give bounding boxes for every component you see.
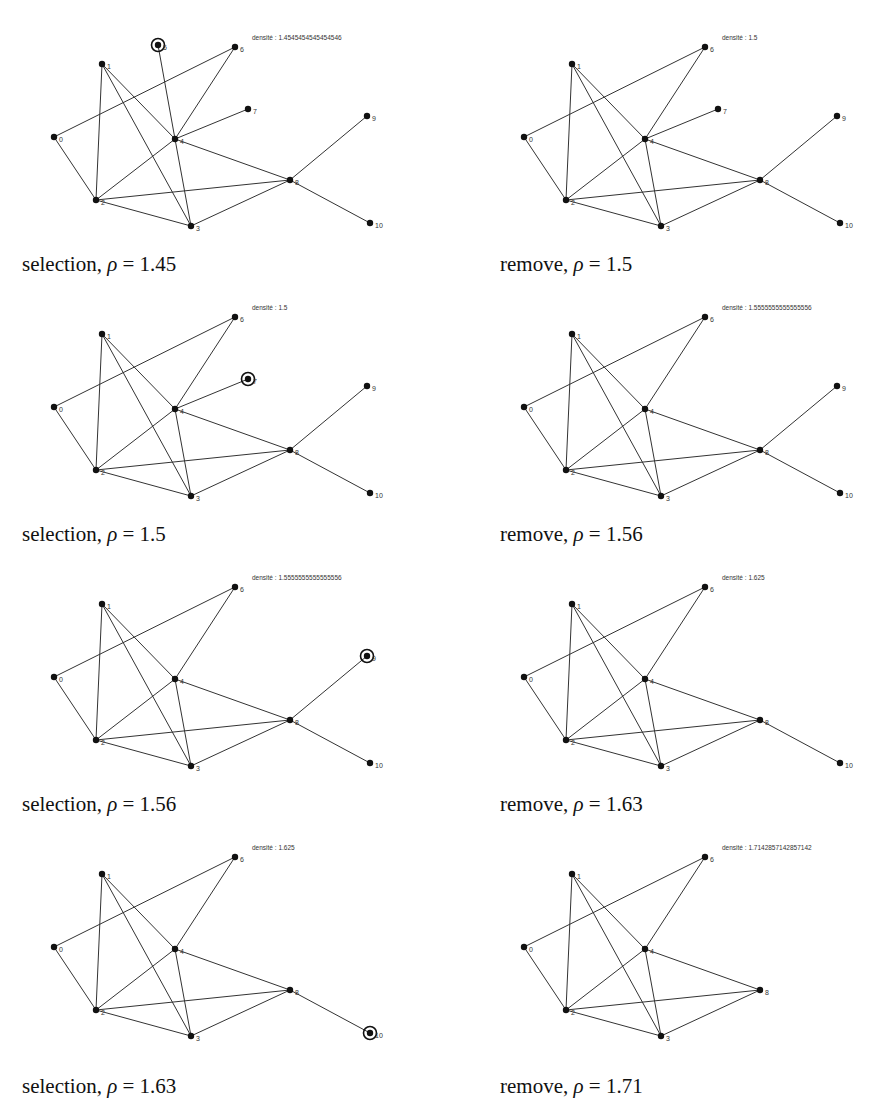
node-label: 7 (723, 108, 727, 115)
graph-edge (175, 317, 235, 409)
graph-drawing: 0123468910densité : 1.5555555555555556 (470, 270, 869, 510)
graph-edge (524, 947, 566, 1010)
node-label: 0 (59, 136, 63, 143)
graph-edge (96, 720, 290, 740)
graph-edge (566, 470, 661, 496)
graph-node-9: 9 (361, 650, 377, 663)
node-label: 2 (571, 739, 575, 746)
graph-drawing: 01234678910densité : 1.5 (470, 0, 869, 240)
graph-panel-8: 0123468densité : 1.7142857142857142 (470, 810, 869, 1080)
caption-operation: remove, (500, 1074, 573, 1098)
node-label: 3 (666, 495, 670, 502)
graph-edge (102, 604, 191, 766)
density-annotation: densité : 1.4545454545454546 (252, 34, 342, 41)
graph-edge (54, 587, 235, 677)
node-label: 8 (295, 989, 299, 996)
graph-node-6: 6 (702, 44, 714, 53)
graph-edge (524, 407, 566, 470)
graph-edge (661, 180, 760, 226)
graph-node-6: 6 (232, 44, 244, 53)
density-annotation: densité : 1.5 (722, 34, 758, 41)
graph-edge (175, 587, 235, 679)
density-annotation: densité : 1.5 (252, 304, 288, 311)
graph-edge (524, 857, 705, 947)
node-label: 9 (372, 115, 376, 122)
graph-edge (54, 677, 96, 740)
graph-edge (566, 990, 760, 1010)
graph-node-10: 10 (367, 490, 383, 499)
graph-edge (158, 45, 175, 139)
node-label: 8 (765, 989, 769, 996)
node-label: 2 (101, 1009, 105, 1016)
graph-edge (175, 949, 191, 1036)
graph-edge (566, 1010, 661, 1036)
rho-symbol: ρ (573, 1074, 583, 1098)
graph-panel-6: 012346810densité : 1.625 (470, 540, 869, 810)
graph-edge (175, 139, 290, 180)
graph-edge (96, 180, 290, 200)
graph-drawing: 012346810densité : 1.625 (470, 540, 869, 780)
graph-edge (96, 679, 175, 740)
graph-edge (96, 1010, 191, 1036)
rho-symbol: ρ (107, 1074, 117, 1098)
graph-edge (661, 990, 760, 1036)
graph-edge (290, 180, 370, 223)
graph-edge (572, 334, 645, 409)
node-label: 6 (240, 586, 244, 593)
graph-node-9: 9 (364, 383, 376, 392)
graph-drawing: 0123468910densité : 1.5555555555555556 (0, 540, 435, 780)
density-annotation: densité : 1.5555555555555556 (722, 304, 812, 311)
graph-edge (645, 679, 760, 720)
graph-edge (96, 874, 102, 1010)
graph-node-7: 7 (242, 373, 258, 386)
graph-edge (566, 679, 645, 740)
node-label: 1 (577, 333, 581, 340)
node-label: 2 (571, 469, 575, 476)
graph-edge (645, 47, 705, 139)
graph-edge (102, 874, 175, 949)
graph-edge (524, 47, 705, 137)
node-label: 10 (375, 222, 383, 229)
graph-edge (645, 139, 760, 180)
graph-edge (572, 874, 645, 949)
graph-edge (645, 317, 705, 409)
node-label: 2 (101, 199, 105, 206)
graph-panel-4: 0123468910densité : 1.5555555555555556 (470, 270, 869, 540)
graph-drawing: 01234678910densité : 1.5 (0, 270, 435, 510)
node-label: 3 (196, 225, 200, 232)
caption-density-value: = 1.63 (117, 1074, 176, 1098)
node-label: 0 (529, 136, 533, 143)
graph-edge (572, 334, 661, 496)
node-label: 8 (765, 449, 769, 456)
node-label: 4 (180, 408, 184, 415)
graph-edge (661, 450, 760, 496)
graph-edge (290, 990, 370, 1033)
graph-drawing: 012346810densité : 1.625 (0, 810, 435, 1050)
graph-edge (524, 587, 705, 677)
graph-edge (572, 64, 661, 226)
graph-edge (760, 180, 840, 223)
node-label: 9 (372, 385, 376, 392)
graph-edge (572, 604, 661, 766)
graph-edge (96, 139, 175, 200)
node-label: 4 (180, 948, 184, 955)
graph-edge (191, 450, 290, 496)
graph-edge (175, 109, 248, 139)
graph-edge (290, 450, 370, 493)
graph-edge (566, 604, 572, 740)
graph-edge (175, 139, 191, 226)
graph-edge (290, 656, 367, 720)
node-label: 2 (101, 739, 105, 746)
graph-edge (102, 604, 175, 679)
graph-edge (760, 386, 837, 450)
graph-edge (96, 604, 102, 740)
node-label: 4 (650, 678, 654, 685)
graph-drawing: 012345678910densité : 1.4545454545454546 (0, 0, 435, 240)
node-label: 3 (196, 495, 200, 502)
node-label: 4 (180, 678, 184, 685)
panel-caption-8: remove, ρ = 1.71 (500, 1074, 643, 1099)
graph-edge (566, 949, 645, 1010)
density-annotation: densité : 1.625 (722, 574, 765, 581)
node-label: 6 (240, 46, 244, 53)
node-label: 8 (295, 179, 299, 186)
